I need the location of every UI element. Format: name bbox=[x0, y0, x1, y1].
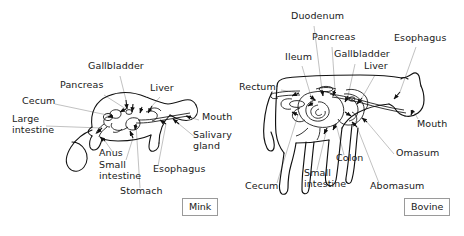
bovine-label-pancreas: Pancreas bbox=[312, 32, 355, 43]
bovine-label-abomasum: Abomasum bbox=[370, 181, 424, 192]
mink-label-cecum: Cecum bbox=[22, 96, 55, 107]
bovine-label-small-intestine: Small intestine bbox=[304, 168, 346, 189]
anatomy-figure: Gallbladder Pancreas Liver Cecum Large i… bbox=[0, 0, 464, 236]
mink-label-mouth: Mouth bbox=[202, 112, 232, 123]
bovine-label-mouth: Mouth bbox=[417, 119, 447, 130]
bovine-label-duodenum: Duodenum bbox=[291, 11, 344, 22]
mink-label-liver: Liver bbox=[150, 83, 174, 94]
panel-tag-mink: Mink bbox=[182, 198, 218, 216]
bovine-label-colon: Colon bbox=[336, 153, 363, 164]
bovine-label-esophagus: Esophagus bbox=[394, 33, 447, 44]
bovine-label-ileum: Ileum bbox=[285, 52, 312, 63]
bovine-label-omasum: Omasum bbox=[396, 148, 439, 159]
mink-label-anus: Anus bbox=[99, 148, 123, 159]
mink-label-gallbladder: Gallbladder bbox=[88, 61, 144, 72]
mink-label-esophagus: Esophagus bbox=[153, 164, 206, 175]
panel-tag-bovine: Bovine bbox=[404, 198, 450, 216]
mink-internal-organs bbox=[96, 108, 190, 137]
mink-label-small-intestine: Small intestine bbox=[99, 160, 141, 181]
bovine-label-gallbladder: Gallbladder bbox=[334, 49, 390, 60]
mink-label-stomach: Stomach bbox=[120, 186, 163, 197]
bovine-label-cecum: Cecum bbox=[245, 181, 278, 192]
bovine-label-rectum: Rectum bbox=[239, 82, 276, 93]
mink-arrows bbox=[97, 100, 192, 141]
mink-label-pancreas: Pancreas bbox=[60, 80, 103, 91]
mink-label-large-intestine: Large intestine bbox=[12, 114, 54, 135]
mink-label-salivary-gland: Salivary gland bbox=[193, 130, 232, 151]
bovine-label-liver: Liver bbox=[364, 61, 388, 72]
